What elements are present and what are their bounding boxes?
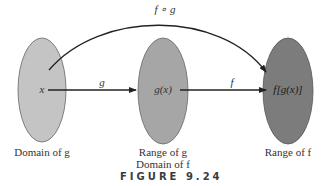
element-f-of-g-of-x: f[g(x)] xyxy=(266,83,310,95)
range-of-g-label: Range of g xyxy=(123,146,203,158)
arrow-composition-label: f ∘ g xyxy=(150,3,180,15)
arrow-f-label: f xyxy=(226,76,238,88)
figure-caption: FIGURE 9.24 xyxy=(120,171,223,182)
range-of-f-label: Range of f xyxy=(248,146,328,158)
element-g-of-x: g(x) xyxy=(145,83,181,95)
arrow-g-label: g xyxy=(96,76,108,88)
domain-of-g-label: Domain of g xyxy=(2,146,82,158)
element-x: x xyxy=(34,83,50,95)
domain-of-f-label: Domain of f xyxy=(123,158,203,170)
